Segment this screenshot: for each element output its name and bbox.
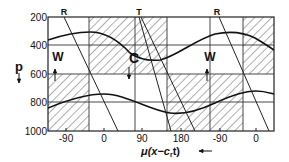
p-axis-arrow-icon (18, 73, 21, 83)
y-axis-label: p (15, 59, 23, 74)
y-axis-ticks: 200 400 600 800 1000 (25, 12, 48, 137)
baroclinic-wave-diagram: 200 400 600 800 1000 p -90 0 90 180 -90 … (0, 0, 289, 162)
x-tick-neg90-b: -90 (213, 133, 228, 144)
x-tick-0-b: 0 (253, 133, 259, 144)
label-warm-right: W (204, 50, 216, 64)
hatch-upper-right (243, 17, 274, 74)
x-axis-arrow-icon (199, 150, 212, 153)
y-tick-1000: 1000 (25, 126, 48, 137)
y-tick-600: 600 (30, 69, 47, 80)
hatch-lower-left (48, 74, 89, 131)
label-trough: T (136, 7, 142, 17)
hatch-lower-right (167, 74, 243, 131)
label-warm-left: W (52, 50, 64, 64)
label-cold: C (129, 50, 139, 66)
y-tick-800: 800 (30, 97, 47, 108)
x-tick-neg90-a: -90 (59, 133, 74, 144)
label-ridge-left: R (61, 7, 68, 17)
x-axis-ticks: -90 0 90 180 -90 0 (59, 133, 259, 144)
label-ridge-right: R (214, 7, 221, 17)
x-tick-0-a: 0 (101, 133, 107, 144)
x-axis-label: μ(x−crt) (140, 145, 180, 158)
y-tick-400: 400 (30, 40, 47, 51)
x-tick-90: 90 (136, 133, 148, 144)
x-tick-180: 180 (173, 133, 190, 144)
y-tick-200: 200 (30, 12, 47, 23)
